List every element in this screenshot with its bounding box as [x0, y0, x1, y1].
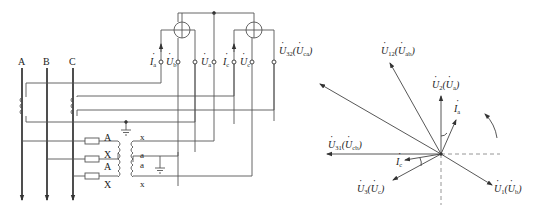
- rotation-arrow: [485, 114, 497, 138]
- fuse-b: [85, 156, 99, 162]
- pt-label-x1: X: [104, 150, 111, 160]
- phase-label-c: C: [69, 57, 76, 67]
- pt-label-a1: A: [104, 133, 111, 143]
- pt-sec-x2: x: [140, 180, 145, 189]
- vector-ia: [441, 120, 456, 154]
- phasor-label-ia: Ia: [454, 104, 460, 116]
- terminal-label-ic: Ic: [223, 57, 229, 69]
- wiring-diagram: [20, 12, 276, 201]
- pt-label-x2: X: [104, 180, 111, 190]
- fuse-a: [85, 138, 99, 144]
- pt-label-a2: A: [104, 162, 111, 172]
- fuse-c: [85, 173, 99, 179]
- phasor-label-u2: U2(Ua): [432, 80, 459, 92]
- terminal-label-ia: Ia: [150, 57, 156, 69]
- terminal-label-uc: Uc: [240, 57, 250, 69]
- terminals: [159, 60, 276, 64]
- terminal-label-ub: Ub: [166, 57, 176, 69]
- label-u32: U32(Uca): [279, 46, 312, 58]
- phasor-label-u12: U12(Uab): [381, 46, 415, 58]
- phasor-label-u1: U1(Ub): [494, 184, 522, 196]
- pt-sec-a2: a: [140, 161, 144, 170]
- pt-sec-x1: x: [140, 133, 145, 142]
- phasor-label-u3: U3(Uc): [357, 184, 384, 196]
- phasor-label-ic: Ic: [396, 157, 402, 169]
- terminal-label-ua: Ua: [201, 57, 211, 69]
- pt-sec-a1: a: [140, 151, 144, 160]
- phase-label-a: A: [18, 57, 25, 67]
- phasor-label-u31: U31(Ucb): [328, 140, 362, 152]
- vector-u1: [441, 154, 492, 185]
- phase-label-b: B: [43, 57, 50, 67]
